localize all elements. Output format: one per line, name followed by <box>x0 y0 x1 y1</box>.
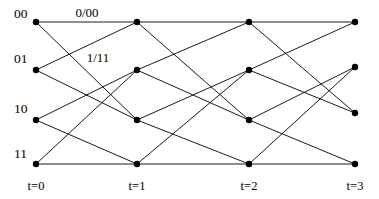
state-label-11: 11 <box>14 146 27 161</box>
state-labels: 00011011 <box>14 6 28 161</box>
trellis-node <box>352 110 358 116</box>
trellis-node <box>352 161 358 167</box>
trellis-node <box>246 161 252 167</box>
trellis-node <box>33 117 39 123</box>
trellis-edge <box>249 70 355 113</box>
time-label-t2: t=2 <box>241 179 258 193</box>
trellis-edge <box>249 67 355 120</box>
trellis-node <box>33 19 39 25</box>
trellis-node <box>246 19 252 25</box>
trellis-edge <box>137 120 249 164</box>
trellis-edge <box>249 67 355 164</box>
trellis-node <box>246 117 252 123</box>
time-label-t3: t=3 <box>347 179 364 193</box>
trellis-node <box>134 19 140 25</box>
trellis-edge <box>249 120 355 164</box>
trellis-edge <box>137 22 249 120</box>
trellis-diagram: 00011011 t=0t=1t=2t=3 0/001/11 <box>0 0 379 199</box>
trellis-edge <box>36 70 137 164</box>
time-axis-labels: t=0t=1t=2t=3 <box>28 179 364 193</box>
edge-transition-labels: 0/001/11 <box>75 5 109 65</box>
trellis-node <box>33 161 39 167</box>
trellis-edge <box>36 22 137 120</box>
trellis-node <box>134 117 140 123</box>
state-label-10: 10 <box>14 101 28 116</box>
trellis-edge <box>249 22 355 113</box>
trellis-edges <box>36 22 355 164</box>
edge-label-1-11: 1/11 <box>87 50 110 65</box>
trellis-node <box>33 67 39 73</box>
trellis-edge <box>36 120 137 164</box>
trellis-edge <box>249 22 355 70</box>
trellis-node <box>246 67 252 73</box>
time-label-t0: t=0 <box>28 179 45 193</box>
trellis-canvas: 00011011 t=0t=1t=2t=3 0/001/11 <box>0 0 379 199</box>
state-label-01: 01 <box>14 51 28 66</box>
trellis-node <box>134 161 140 167</box>
trellis-node <box>352 19 358 25</box>
trellis-node <box>352 64 358 70</box>
trellis-edge <box>137 22 249 70</box>
trellis-node <box>134 67 140 73</box>
trellis-edge <box>137 70 249 164</box>
time-label-t1: t=1 <box>129 179 146 193</box>
state-label-00: 00 <box>14 6 28 21</box>
edge-label-0-00: 0/00 <box>75 5 98 20</box>
